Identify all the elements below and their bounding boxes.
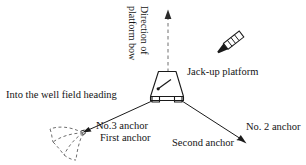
drag-arc-1 — [50, 127, 83, 133]
direction-of-platform-bow-label: Direction of platform bow — [127, 6, 150, 60]
tug-divider-3 — [234, 35, 239, 41]
platform-crane-boom — [159, 80, 172, 89]
tug-hull — [223, 31, 243, 49]
diagram-vector-layer — [0, 0, 306, 165]
anchor-drag-fan — [50, 127, 83, 160]
tug-divider-2 — [231, 38, 236, 44]
platform-deck-base — [151, 97, 184, 101]
drag-arc-edge-left — [50, 129, 53, 142]
platform-crane-pivot — [157, 87, 160, 90]
drag-arc-2 — [53, 133, 83, 142]
tug-bow — [216, 43, 228, 55]
bow-label-line-2: platform bow — [127, 6, 139, 60]
anchor-handling-tug-icon — [216, 31, 244, 55]
platform-hull — [151, 72, 184, 97]
drag-arc-3 — [64, 133, 83, 155]
well-field-heading-label: Into the well field heading — [6, 89, 117, 101]
jack-up-platform-label: Jack-up platform — [187, 66, 258, 78]
platform-leg-left — [152, 97, 160, 103]
first-anchor-label: First anchor — [100, 132, 150, 144]
diagram-canvas: Direction of platform bow Jack-up platfo… — [0, 0, 306, 165]
anchor-2-label: No. 2 anchor — [246, 121, 301, 133]
anchor-2-arrowhead — [238, 135, 247, 144]
anchor-3-label: No.3 anchor — [96, 120, 148, 132]
drag-arc-edge-mid — [53, 142, 64, 155]
mooring-line-right-segment — [182, 101, 241, 139]
jack-up-platform-icon — [151, 72, 184, 103]
platform-leg-right — [175, 97, 183, 103]
tug-divider-1 — [227, 40, 232, 46]
bow-direction-arrowhead — [165, 10, 172, 20]
second-anchor-label: Second anchor — [172, 137, 234, 149]
drag-arc-edge-bottom — [64, 155, 76, 160]
bow-direction-arrow — [165, 10, 172, 73]
bow-label-line-1: Direction of — [139, 6, 151, 60]
